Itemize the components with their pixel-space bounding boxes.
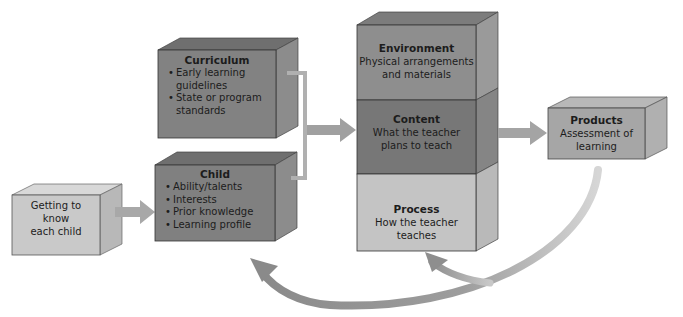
environment-line: and materials (357, 68, 476, 81)
content-line: plans to teach (357, 139, 476, 152)
environment-label: Environment Physical arrangements and ma… (357, 42, 476, 81)
arrow-bracket-to-stack (307, 118, 356, 142)
getting-to-know-line: Getting to (12, 199, 100, 212)
environment-title: Environment (357, 42, 476, 55)
products-line: Assessment of (548, 127, 645, 140)
process-title: Process (357, 203, 476, 216)
child-bullet: Learning profile (165, 219, 275, 232)
process-line: How the teacher (357, 216, 476, 229)
child-bullet: Interests (165, 194, 275, 207)
products-title: Products (548, 114, 645, 127)
process-label: Process How the teacher teaches (357, 203, 476, 242)
curriculum-title: Curriculum (158, 54, 276, 67)
diagram-canvas (0, 0, 683, 317)
child-bullet: Prior knowledge (165, 206, 275, 219)
curriculum-label: Curriculum Early learning guidelines Sta… (158, 54, 276, 117)
getting-to-know-line: know (12, 212, 100, 225)
products-line: learning (548, 140, 645, 153)
products-label: Products Assessment of learning (548, 114, 645, 153)
arrow-content-to-products (498, 121, 547, 145)
process-line: teaches (357, 229, 476, 242)
content-title: Content (357, 113, 476, 126)
curriculum-bullet: Early learning guidelines (168, 67, 276, 92)
child-bullet: Ability/talents (165, 181, 275, 194)
content-label: Content What the teacher plans to teach (357, 113, 476, 152)
getting-to-know-label: Getting to know each child (12, 199, 100, 238)
content-line: What the teacher (357, 126, 476, 139)
curved-arrow-head-child (250, 258, 278, 282)
environment-line: Physical arrangements (357, 55, 476, 68)
child-title: Child (155, 168, 275, 181)
child-label: Child Ability/talents Interests Prior kn… (155, 168, 275, 231)
getting-to-know-line: each child (12, 225, 100, 238)
curriculum-bullet: State or program standards (168, 92, 276, 117)
